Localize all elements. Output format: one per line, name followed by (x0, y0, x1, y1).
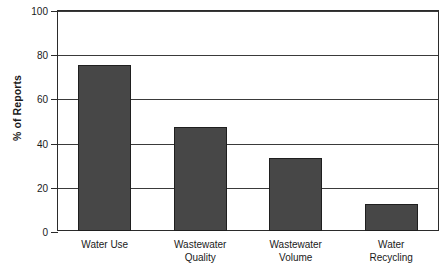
y-tick-mark (51, 55, 58, 56)
bar-chart: % of Reports 020406080100 Water UseWaste… (0, 0, 447, 271)
y-tick-label: 20 (37, 182, 48, 193)
x-category-label-line: Wastewater (153, 238, 249, 251)
y-tick-mark (51, 232, 58, 233)
x-category-label-line: Water (344, 238, 440, 251)
y-tick-label: 100 (31, 6, 48, 17)
y-tick-label: 60 (37, 94, 48, 105)
y-tick-mark (51, 188, 58, 189)
y-tick-mark (51, 99, 58, 100)
gridline (58, 188, 438, 189)
y-tick-label: 80 (37, 50, 48, 61)
x-category-label: WaterRecycling (344, 238, 440, 264)
x-category-label-line: Volume (248, 251, 344, 264)
x-category-label-line: Wastewater (248, 238, 344, 251)
gridline (58, 99, 438, 100)
gridline (58, 144, 438, 145)
x-category-label: WastewaterQuality (153, 238, 249, 264)
y-tick-label: 40 (37, 138, 48, 149)
y-tick-label: 0 (42, 227, 48, 238)
gridline (58, 11, 438, 12)
x-axis-category-labels: Water UseWastewaterQualityWastewaterVolu… (57, 238, 439, 271)
y-axis-title: % of Reports (11, 43, 23, 173)
x-category-label-line: Recycling (344, 251, 440, 264)
y-tick-mark (51, 11, 58, 12)
y-tick-mark (51, 144, 58, 145)
x-category-label-line: Water Use (57, 238, 153, 251)
gridline (58, 55, 438, 56)
plot-area: 020406080100 (57, 10, 439, 231)
x-category-label-line: Quality (153, 251, 249, 264)
x-category-label: Water Use (57, 238, 153, 251)
x-category-label: WastewaterVolume (248, 238, 344, 264)
